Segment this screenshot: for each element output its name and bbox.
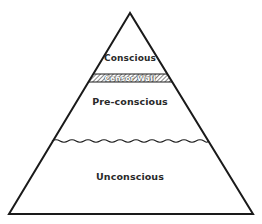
label-censor-wall: Censor Wall bbox=[104, 74, 155, 83]
pyramid-outline bbox=[9, 13, 253, 214]
pyramid-diagram bbox=[0, 0, 262, 224]
label-conscious: Conscious bbox=[104, 53, 156, 63]
wavy-divider bbox=[52, 140, 208, 143]
label-unconscious: Unconscious bbox=[96, 171, 164, 182]
label-preconscious: Pre-conscious bbox=[92, 96, 168, 107]
